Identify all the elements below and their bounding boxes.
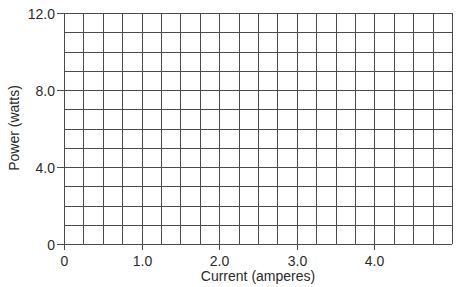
y-tick-label: 12.0 (28, 6, 55, 22)
y-tick-label: 0 (47, 237, 55, 253)
x-tick-label: 2.0 (210, 253, 230, 269)
x-tick-label: 3.0 (288, 253, 308, 269)
x-axis-ticks: 01.02.03.04.0 (61, 244, 385, 269)
y-tick-label: 8.0 (36, 83, 56, 99)
x-tick-label: 1.0 (133, 253, 153, 269)
grid-lines (64, 13, 453, 245)
y-tick-label: 4.0 (36, 160, 56, 176)
x-axis-title: Current (amperes) (201, 268, 315, 284)
x-tick-label: 4.0 (365, 253, 385, 269)
y-axis-ticks: 04.08.012.0 (28, 6, 64, 253)
y-axis-title: Power (watts) (6, 85, 22, 171)
empty-graph-grid: 04.08.012.0 01.02.03.04.0 Current (amper… (0, 0, 461, 287)
x-tick-label: 0 (61, 253, 69, 269)
